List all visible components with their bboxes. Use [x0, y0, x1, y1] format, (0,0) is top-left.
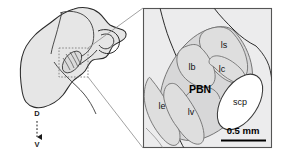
scale-bar-label: 0.5 mm: [227, 125, 260, 136]
figure-root: D V: [0, 0, 282, 158]
overview-panel: D V: [20, 8, 126, 149]
detail-panel: ls lb lc le lv scp PBN 0.5 mm: [144, 8, 273, 148]
axis-label-dorsal: D: [34, 109, 40, 118]
label-pbn: PBN: [189, 83, 211, 95]
connector-lower: [88, 77, 143, 148]
axis-label-ventral: V: [34, 140, 39, 149]
dorsal-ventral-axis: D V: [34, 109, 40, 149]
figure-canvas: D V: [0, 0, 282, 158]
